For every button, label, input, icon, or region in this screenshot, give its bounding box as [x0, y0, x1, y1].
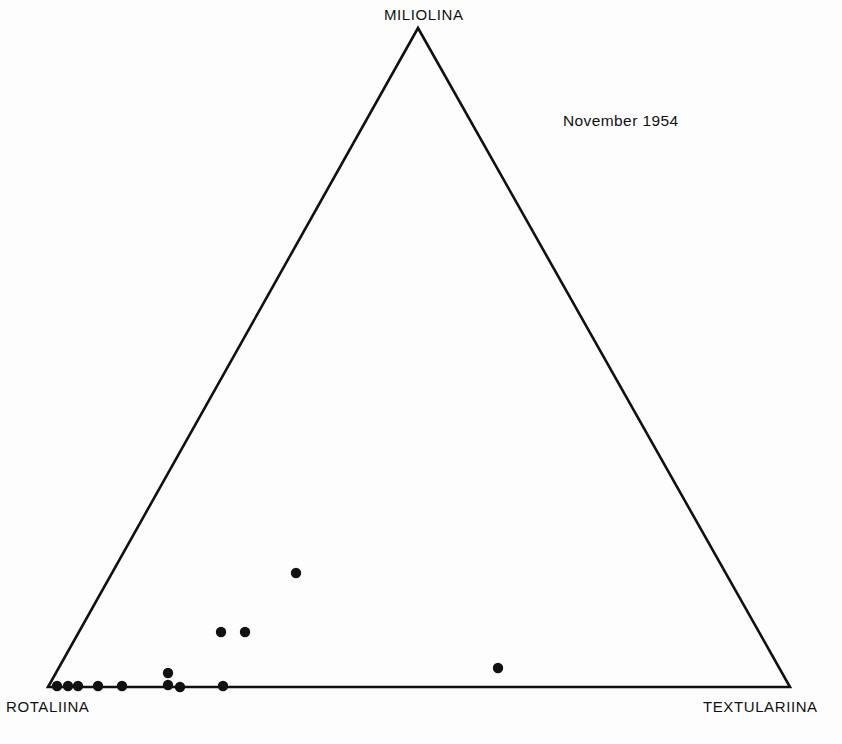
vertex-label-textulariina: TEXTULARIINA [703, 698, 818, 715]
triangle-outline-path [48, 28, 790, 687]
vertex-label-miliolina: MILIOLINA [384, 6, 464, 23]
data-point-group [52, 568, 503, 692]
data-point [218, 681, 228, 691]
vertex-label-rotaliina: ROTALIINA [6, 698, 89, 715]
data-point [73, 681, 83, 691]
date-annotation: November 1954 [563, 112, 679, 130]
data-point [493, 663, 503, 673]
data-point [291, 568, 301, 578]
ternary-triangle-outline [48, 28, 790, 687]
data-point [117, 681, 127, 691]
ternary-diagram-figure: MILIOLINA ROTALIINA TEXTULARIINA Novembe… [0, 0, 842, 744]
data-point [63, 681, 73, 691]
data-point [163, 668, 173, 678]
data-point [52, 681, 62, 691]
ternary-plot-svg [0, 0, 842, 744]
data-point [240, 627, 250, 637]
data-point [93, 681, 103, 691]
data-point [175, 682, 185, 692]
data-point [163, 680, 173, 690]
data-point [216, 627, 226, 637]
